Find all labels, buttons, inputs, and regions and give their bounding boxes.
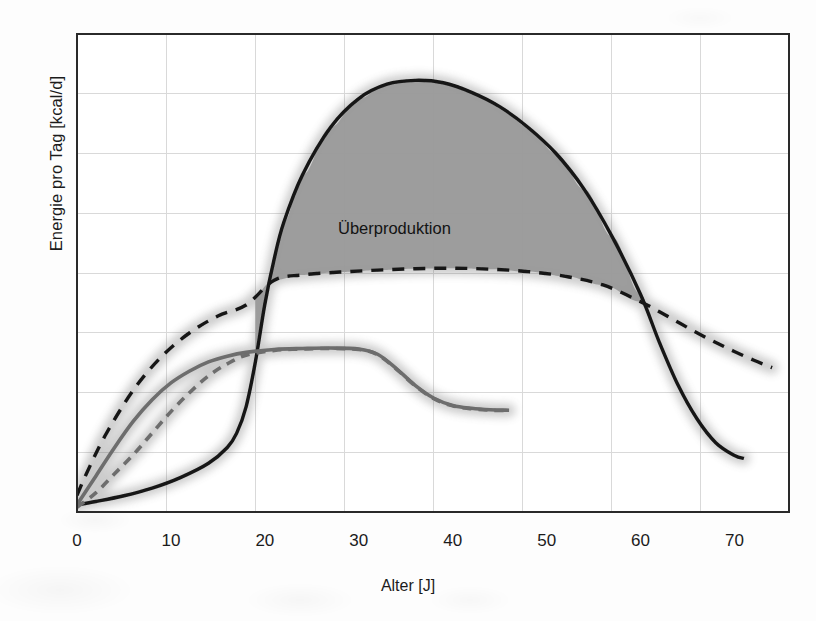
annotation-ueberproduktion: Überproduktion xyxy=(338,219,451,238)
x-tick-20: 20 xyxy=(255,531,274,551)
chart-figure: Energie pro Tag [kcal/d] Überproduktion xyxy=(0,0,816,621)
x-tick-70: 70 xyxy=(725,531,744,551)
x-tick-40: 40 xyxy=(443,531,462,551)
plot-canvas xyxy=(0,0,816,621)
x-tick-10: 10 xyxy=(161,531,180,551)
x-axis-label: Alter [J] xyxy=(0,577,816,595)
x-tick-60: 60 xyxy=(631,531,650,551)
x-tick-50: 50 xyxy=(537,531,556,551)
x-tick-30: 30 xyxy=(349,531,368,551)
x-tick-0: 0 xyxy=(72,531,81,551)
